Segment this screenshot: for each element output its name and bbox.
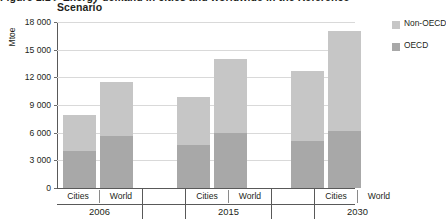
legend-swatch-icon xyxy=(392,21,400,29)
gridline xyxy=(57,22,355,23)
chart-legend: Non-OECD OECD xyxy=(392,18,444,62)
x-axis: Cities World Cities World Cities World 2… xyxy=(57,188,355,220)
bar-segment-non-oecd xyxy=(214,59,247,133)
tick-mark xyxy=(54,50,57,51)
bar-2030-cities[interactable] xyxy=(291,71,324,188)
legend-swatch-icon xyxy=(392,43,400,51)
bar-2030-world[interactable] xyxy=(328,31,361,188)
bar-segment-oecd xyxy=(177,145,210,188)
bar-segment-oecd xyxy=(100,136,133,188)
bar-segment-non-oecd xyxy=(177,97,210,145)
bar-segment-non-oecd xyxy=(328,31,361,131)
tick-mark xyxy=(54,22,57,23)
bar-segment-non-oecd xyxy=(291,71,324,141)
x-group-label-2006: 2006 xyxy=(57,204,142,219)
x-label-2006-cities: Cities xyxy=(57,189,99,204)
x-label-2030-cities: Cities xyxy=(315,189,357,204)
y-tick-label: 0 xyxy=(46,183,51,193)
bar-2015-cities[interactable] xyxy=(177,97,210,188)
legend-label: OECD xyxy=(404,40,428,50)
tick-mark xyxy=(54,77,57,78)
y-tick-label: 12 000 xyxy=(25,72,51,82)
legend-label: Non-OECD xyxy=(404,18,446,28)
y-tick-label: 3 000 xyxy=(29,155,51,165)
gridline xyxy=(57,50,355,51)
y-axis-label: Mtoe xyxy=(7,17,17,57)
y-tick-label: 9 000 xyxy=(29,100,51,110)
x-spacer-cell-2 xyxy=(272,189,314,204)
bar-segment-oecd xyxy=(291,141,324,188)
tick-mark xyxy=(54,133,57,134)
x-spacer-cell-1 xyxy=(143,189,185,204)
bar-segment-oecd xyxy=(63,151,96,188)
bar-segment-non-oecd xyxy=(63,115,96,151)
x-label-2006-world: World xyxy=(100,189,142,204)
bar-2006-cities[interactable] xyxy=(63,115,96,188)
x-label-2030-world: World xyxy=(358,189,400,204)
y-tick-label: 6 000 xyxy=(29,128,51,138)
y-tick-label: 18 000 xyxy=(25,17,51,27)
bar-segment-oecd xyxy=(214,133,247,188)
x-label-2015-world: World xyxy=(229,189,271,204)
tick-mark xyxy=(54,105,57,106)
bar-segment-non-oecd xyxy=(100,82,133,136)
x-group-label-2015: 2015 xyxy=(186,204,271,219)
legend-item-oecd[interactable]: OECD xyxy=(392,40,444,62)
bar-2015-world[interactable] xyxy=(214,59,247,188)
y-tick-label: 15 000 xyxy=(25,45,51,55)
x-label-2015-cities: Cities xyxy=(186,189,228,204)
bar-segment-oecd xyxy=(328,131,361,188)
plot-area: 18 000 15 000 12 000 9 000 6 000 3 000 xyxy=(57,22,355,188)
bar-2006-world[interactable] xyxy=(100,82,133,188)
tick-mark xyxy=(54,160,57,161)
legend-item-non-oecd[interactable]: Non-OECD xyxy=(392,18,444,40)
x-group-label-2030: 2030 xyxy=(315,204,400,219)
